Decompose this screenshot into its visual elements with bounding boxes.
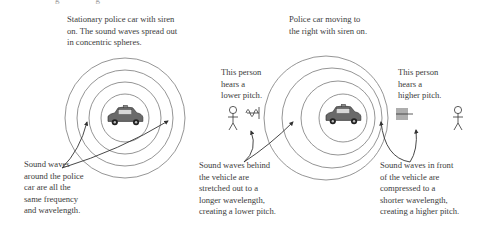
front-note-arrows bbox=[381, 122, 416, 162]
low-pitch-wave-icon bbox=[246, 107, 259, 119]
stationary-caption: Stationary police car with siren on. The… bbox=[67, 14, 177, 49]
high-pitch-wave-icon bbox=[396, 108, 413, 120]
left-listener-label: This person hears a lower pitch. bbox=[221, 67, 262, 102]
listener-high-pitch-person-icon bbox=[453, 106, 463, 130]
behind-vehicle-note: Sound waves behind the vehicle are stret… bbox=[199, 160, 276, 218]
front-vehicle-note: Sound waves in front of the vehicle are … bbox=[380, 160, 459, 218]
right-listener-label: This person hears a higher pitch. bbox=[398, 67, 441, 102]
stationary-note: Sound waves around the police car are al… bbox=[24, 159, 84, 217]
stationary-police-car-icon bbox=[108, 105, 143, 125]
moving-police-car-icon bbox=[326, 104, 361, 124]
moving-caption: Police car moving to the right with sire… bbox=[289, 14, 367, 37]
listener-low-pitch-person-icon bbox=[228, 106, 238, 130]
